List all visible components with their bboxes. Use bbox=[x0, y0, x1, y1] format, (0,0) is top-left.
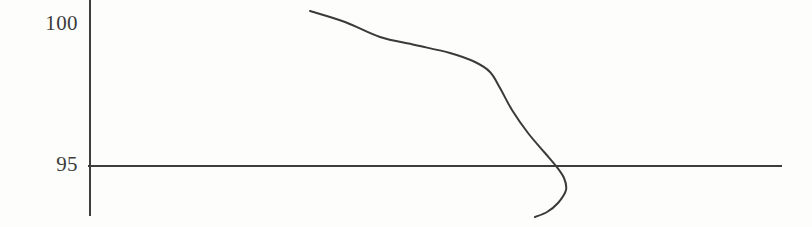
data-curve bbox=[310, 11, 566, 217]
y-tick-label-100: 100 bbox=[0, 11, 78, 36]
plot-canvas bbox=[0, 0, 812, 227]
chart-figure: 100 95 bbox=[0, 0, 812, 227]
y-tick-label-95: 95 bbox=[0, 152, 78, 177]
